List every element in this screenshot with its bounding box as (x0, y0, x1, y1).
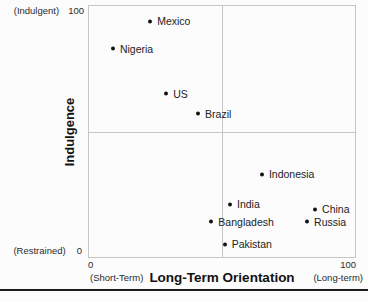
point-label: Bangladesh (218, 215, 273, 228)
point-marker (196, 112, 200, 116)
point-marker (111, 47, 115, 51)
point-label: Pakistan (232, 238, 272, 251)
plot-area: MexicoNigeriaUSBrazilIndonesiaIndiaChina… (88, 5, 356, 258)
data-point-china: China (313, 203, 349, 216)
data-point-brazil: Brazil (196, 107, 231, 120)
point-label: Russia (314, 215, 346, 228)
point-marker (313, 207, 317, 211)
point-label: Nigeria (120, 42, 153, 55)
data-point-indonesia: Indonesia (260, 168, 315, 181)
y-axis-min-tick: 0 (77, 245, 82, 257)
bottom-divider (0, 289, 368, 291)
point-label: Mexico (157, 15, 190, 28)
quadrant-horizontal-line (89, 132, 355, 133)
data-point-pakistan: Pakistan (223, 238, 272, 251)
point-marker (223, 242, 227, 246)
y-axis-top-labels: (Indulgent) 100 (0, 5, 84, 17)
point-label: Brazil (205, 107, 231, 120)
point-label: India (237, 198, 260, 211)
y-axis-title: Indulgence (62, 98, 77, 167)
point-marker (260, 172, 264, 176)
data-point-nigeria: Nigeria (111, 42, 153, 55)
data-point-us: US (164, 87, 188, 100)
point-marker (148, 19, 152, 23)
y-axis-bottom-labels: (Restrained) 0 (0, 245, 82, 257)
data-point-india: India (228, 198, 260, 211)
data-point-russia: Russia (305, 215, 346, 228)
y-axis-max-qualifier: (Indulgent) (14, 5, 59, 17)
point-marker (305, 220, 309, 224)
data-point-mexico: Mexico (148, 15, 190, 28)
y-axis-max-tick: 100 (68, 5, 84, 17)
x-axis-max-qualifier: (Long-term) (313, 272, 363, 284)
point-label: Indonesia (269, 168, 315, 181)
point-label: US (173, 87, 188, 100)
point-marker (164, 92, 168, 96)
scatter-figure: MexicoNigeriaUSBrazilIndonesiaIndiaChina… (0, 0, 368, 302)
y-axis-min-qualifier: (Restrained) (13, 245, 65, 257)
point-label: China (322, 203, 349, 216)
data-point-bangladesh: Bangladesh (209, 215, 273, 228)
point-marker (228, 202, 232, 206)
point-marker (209, 220, 213, 224)
